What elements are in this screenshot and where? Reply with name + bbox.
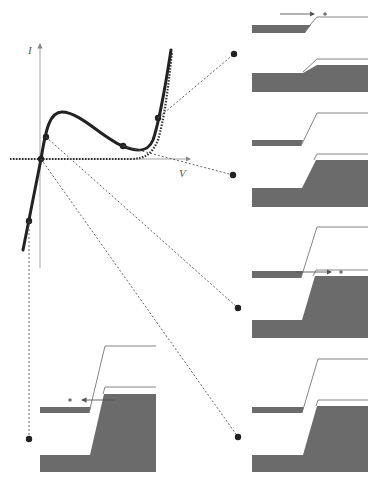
dot-panel-4: [235, 434, 241, 440]
conduction-band-lower: [252, 406, 368, 472]
electron-icon: [339, 270, 343, 274]
electron-icon: [323, 12, 327, 16]
dot-panel-2: [230, 172, 236, 178]
tunnel-diode-diagram: I V: [0, 0, 378, 479]
band-panel-5: [40, 346, 156, 472]
band-edge-line-upper: [303, 17, 368, 33]
dot-panel-3: [235, 305, 241, 311]
band-panel-2: [252, 113, 368, 207]
band-edge-line-upper: [301, 113, 368, 146]
conduction-band-lower: [252, 65, 368, 92]
valence-band-upper: [252, 407, 304, 413]
valence-band-upper: [40, 407, 91, 413]
conduction-band-lower: [252, 276, 368, 338]
band-panel-4: [252, 359, 368, 472]
tunnel-diode-curve: [23, 50, 171, 250]
valence-band-upper: [252, 25, 311, 33]
leader-valley: [123, 146, 233, 175]
valence-band-upper: [252, 271, 303, 278]
i-axis-label: I: [27, 44, 33, 56]
band-edge-line-lower: [103, 387, 156, 394]
band-edge-line-upper: [302, 359, 368, 413]
band-panel-3: [252, 227, 368, 338]
iv-plot: I V: [10, 44, 190, 268]
thermal-diode-curve: [10, 52, 172, 159]
band-edge-line-lower: [316, 400, 368, 406]
dot-panel-1: [231, 51, 237, 57]
band-panel-1: [252, 12, 368, 92]
electron-icon: [68, 398, 72, 402]
conduction-band-lower: [252, 160, 368, 207]
v-axis-label: V: [179, 167, 187, 179]
conduction-band-lower: [40, 394, 156, 472]
band-edge-line-lower: [314, 154, 368, 160]
leader-small-forward: [46, 137, 238, 308]
valence-band-upper: [252, 140, 303, 146]
dot-panel-5: [26, 436, 32, 442]
